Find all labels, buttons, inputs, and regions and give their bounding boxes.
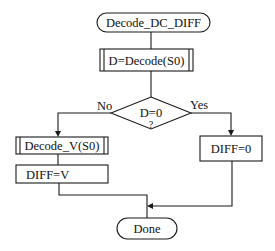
diff-v-label: DIFF=V [26, 168, 69, 182]
edge-diff0-to-done [151, 161, 232, 206]
yes-label: Yes [190, 98, 208, 112]
decode-label: D=Decode(S0) [109, 54, 185, 68]
edge-no-branch [58, 113, 111, 134]
decision-label: D=0 [140, 106, 162, 120]
diff-zero-label: DIFF=0 [211, 142, 251, 156]
diff-v-process-box: DIFF=V [16, 165, 108, 183]
arrow-head-yes [228, 130, 234, 136]
start-label: Decode_DC_DIFF [106, 16, 201, 30]
decode-process-box: D=Decode(S0) [100, 49, 193, 71]
decode-v-process-box: Decode_V(S0) [16, 137, 108, 154]
decode-v-label: Decode_V(S0) [25, 139, 100, 153]
flowchart-canvas: Decode_DC_DIFF D=Decode(S0) D=0 ? No Yes… [0, 0, 275, 251]
done-label: Done [133, 222, 161, 236]
edge-diffv-to-done [59, 183, 147, 218]
arrow-head-merge [147, 203, 153, 209]
no-label: No [97, 99, 112, 113]
arrow-head-no [55, 131, 61, 137]
edge-yes-branch [191, 113, 231, 133]
decision-diamond: D=0 ? [111, 97, 191, 130]
start-terminal: Decode_DC_DIFF [97, 13, 210, 32]
decision-question-mark: ? [149, 119, 154, 130]
done-terminal: Done [117, 218, 177, 239]
diff-zero-process-box: DIFF=0 [200, 136, 262, 161]
